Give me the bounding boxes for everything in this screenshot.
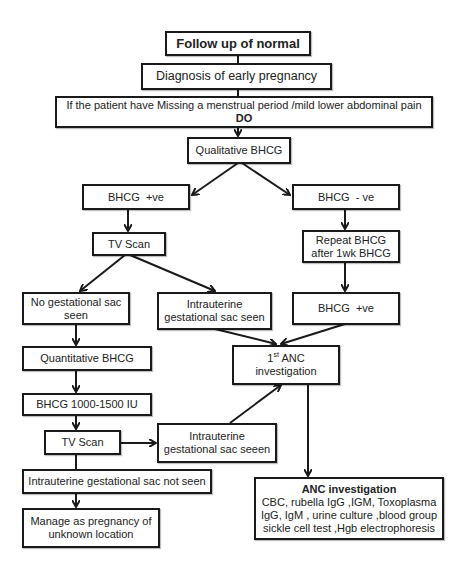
symptoms-do-text: DO — [236, 112, 253, 125]
diagnosis-text: Diagnosis of early pregnancy — [156, 70, 317, 83]
intra-seen-line2: gestational sac seen — [164, 311, 264, 324]
first-anc-box: 1st ANC investigation — [232, 345, 340, 385]
tv-scan-text-1: TV Scan — [108, 238, 150, 251]
title-text: Follow up of normal — [176, 37, 300, 50]
bhcg-negative-text: BHCG - ve — [318, 191, 374, 204]
bhcg-positive-text: BHCG +ve — [108, 191, 164, 204]
anc-investigation-line1: CBC, rubella IgG ,IGM, Toxoplasma — [262, 496, 437, 509]
quantitative-bhcg-box: Quantitative BHCG — [22, 346, 152, 371]
qualitative-bhcg-box: Qualitative BHCG — [187, 137, 291, 164]
diagnosis-box: Diagnosis of early pregnancy — [141, 63, 332, 90]
bhcg-negative-box: BHCG - ve — [292, 184, 400, 210]
symptoms-box: If the patient have Missing a menstrual … — [55, 96, 433, 128]
no-sac-line2: seen — [64, 309, 88, 322]
quantitative-bhcg-text: Quantitative BHCG — [40, 352, 134, 365]
first-anc-line1: 1st ANC — [267, 352, 304, 365]
intra-seen-line1: Intrauterine — [187, 298, 243, 311]
intrauterine-sac-not-seen-box: Intrauterine gestational sac not seen — [22, 469, 212, 494]
intra-not-seen-text: Intrauterine gestational sac not seen — [28, 475, 205, 488]
no-gestational-sac-box: No gestational sac seen — [22, 292, 130, 325]
manage-pul-line1: Manage as pregnancy of — [30, 515, 151, 528]
intra-seeen-line2: gestational sac seeen — [164, 443, 270, 456]
anc-investigation-title: ANC investigation — [302, 483, 397, 496]
intrauterine-sac-seen-box: Intrauterine gestational sac seen — [157, 292, 272, 330]
bhcg-positive-box: BHCG +ve — [82, 184, 190, 210]
bhcg-range-box: BHCG 1000-1500 IU — [22, 393, 152, 416]
bhcg-range-text: BHCG 1000-1500 IU — [36, 398, 138, 411]
tv-scan-box-2: TV Scan — [44, 430, 121, 455]
no-sac-line1: No gestational sac — [31, 296, 122, 309]
anc-investigation-line2: IgG, IgM , urine culture ,blood group — [261, 509, 437, 522]
bhcg-positive-box-2: BHCG +ve — [292, 292, 400, 325]
manage-pul-line2: unknown location — [48, 528, 133, 541]
bhcg-positive-text-2: BHCG +ve — [318, 302, 374, 315]
repeat-bhcg-box: Repeat BHCG after 1wk BHCG — [302, 230, 400, 263]
repeat-bhcg-line2: after 1wk BHCG — [311, 247, 390, 260]
intrauterine-sac-seeen-box: Intrauterine gestational sac seeen — [157, 423, 277, 463]
anc-investigation-box: ANC investigation CBC, rubella IgG ,IGM,… — [254, 477, 444, 540]
anc-investigation-line3: sickle cell test ,Hgb electrophoresis — [263, 522, 435, 535]
intra-seeen-line1: Intrauterine — [189, 430, 245, 443]
title-box: Follow up of normal — [165, 31, 311, 56]
manage-pul-box: Manage as pregnancy of unknown location — [22, 508, 160, 548]
repeat-bhcg-line1: Repeat BHCG — [316, 234, 386, 247]
first-anc-line2: investigation — [255, 365, 316, 378]
symptoms-text: If the patient have Missing a menstrual … — [66, 99, 421, 112]
tv-scan-text-2: TV Scan — [61, 436, 103, 449]
tv-scan-box-1: TV Scan — [92, 232, 166, 256]
qualitative-bhcg-text: Qualitative BHCG — [196, 144, 283, 157]
